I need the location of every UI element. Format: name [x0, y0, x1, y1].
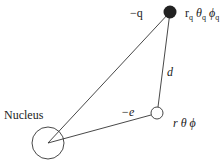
diagram-canvas [0, 0, 222, 164]
electron-label: −e [121, 106, 134, 118]
nucleus-label: Nucleus [4, 109, 43, 121]
charge-label: −q [130, 7, 143, 19]
electron-coordinates: r θ ϕ [173, 117, 196, 129]
distance-label: d [167, 66, 173, 78]
charge-to-electron-line [158, 12, 170, 107]
point-charge [164, 6, 177, 19]
electron-circle [151, 107, 163, 119]
nucleus-to-charge-line [48, 12, 170, 143]
charge-coordinates: rq θq ϕq [185, 7, 219, 22]
